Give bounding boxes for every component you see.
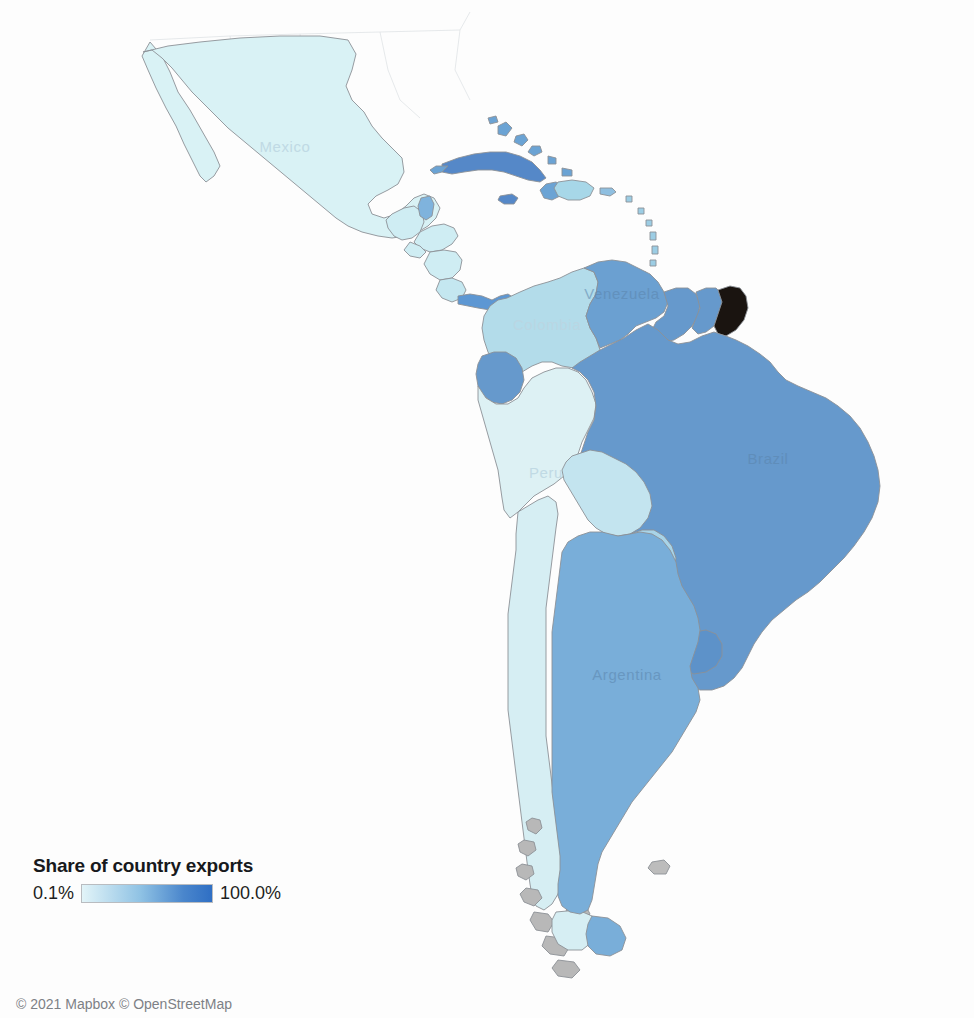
region-jamaica[interactable] <box>498 194 518 204</box>
region-belize[interactable] <box>418 196 434 220</box>
legend-gradient-bar <box>81 884 213 903</box>
map-page: MexicoColombiaVenezuelaPeruBrazilArgenti… <box>0 0 974 1018</box>
legend-scale: 0.1% 100.0% <box>33 883 303 904</box>
legend-min-label: 0.1% <box>33 883 74 904</box>
map-attribution[interactable]: © 2021 Mapbox © OpenStreetMap <box>16 996 232 1012</box>
region-dominican-republic[interactable] <box>554 180 594 200</box>
legend-title: Share of country exports <box>33 855 303 877</box>
map-legend: Share of country exports 0.1% 100.0% <box>33 855 303 904</box>
legend-max-label: 100.0% <box>220 883 281 904</box>
